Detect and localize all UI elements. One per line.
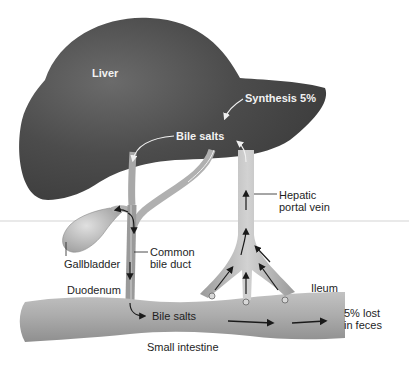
hepatic-portal-vein-label-1: Hepatic: [279, 189, 316, 201]
lost-in-feces-label-1: 5% lost: [344, 307, 380, 319]
portal-vein-shape: [200, 150, 295, 300]
synthesis-label: Synthesis 5%: [245, 92, 316, 104]
common-bile-duct-shape: [130, 205, 132, 300]
liver-label: Liver: [92, 67, 118, 79]
bile-salts-liver-label: Bile salts: [176, 130, 224, 142]
common-bile-duct-label-1: Common: [150, 246, 195, 258]
lost-in-feces-label-2: in feces: [344, 319, 382, 331]
common-bile-duct-label-2: bile duct: [150, 258, 191, 270]
bile-salts-intestine-label: Bile salts: [152, 310, 196, 322]
small-intestine-label: Small intestine: [147, 341, 219, 353]
gallbladder-label: Gallbladder: [64, 258, 120, 270]
gallbladder-shape: [63, 208, 122, 252]
ileum-label: Ileum: [311, 282, 338, 294]
hepatic-portal-vein-label-2: portal vein: [279, 201, 330, 213]
absorption-node: [243, 299, 249, 305]
absorption-node: [282, 297, 288, 303]
liver-shape: [19, 18, 326, 200]
duodenum-label: Duodenum: [67, 284, 121, 296]
enterohepatic-diagram: Liver Synthesis 5% Bile salts Hepatic po…: [0, 0, 409, 366]
absorption-node: [209, 293, 215, 299]
